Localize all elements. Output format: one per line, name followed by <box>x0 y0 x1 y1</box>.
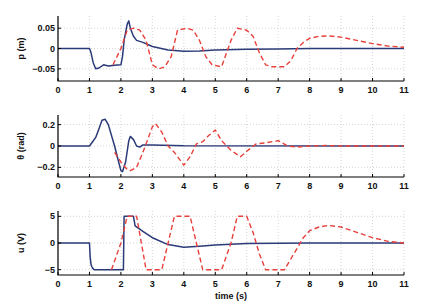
y-axis-label: p (m) <box>16 38 26 60</box>
panel-p: 012345678910110.050−0.05p (m) <box>16 16 409 95</box>
y-axis-label: θ (rad) <box>16 132 26 159</box>
x-tick-label: 5 <box>213 279 218 289</box>
x-tick-label: 6 <box>244 85 249 95</box>
x-tick-label: 8 <box>307 85 312 95</box>
y-tick-label: −0.2 <box>37 162 55 172</box>
x-tick-label: 6 <box>244 181 249 191</box>
x-tick-label: 1 <box>87 181 92 191</box>
x-tick-label: 4 <box>181 85 186 95</box>
x-tick-label: 0 <box>55 85 60 95</box>
panel-theta: 012345678910110.20−0.2θ (rad) <box>16 115 409 191</box>
x-tick-label: 11 <box>399 279 409 289</box>
x-tick-label: 10 <box>368 279 378 289</box>
y-tick-label: −5 <box>45 265 55 275</box>
x-tick-label: 4 <box>181 181 186 191</box>
x-tick-label: 7 <box>276 85 281 95</box>
y-tick-label: 0.05 <box>37 23 55 33</box>
x-tick-label: 2 <box>118 181 123 191</box>
x-tick-label: 11 <box>399 181 409 191</box>
y-tick-label: 5 <box>50 211 55 221</box>
x-tick-label: 5 <box>213 85 218 95</box>
x-tick-label: 1 <box>87 279 92 289</box>
x-tick-label: 10 <box>368 85 378 95</box>
x-tick-label: 5 <box>213 181 218 191</box>
y-tick-label: 0 <box>50 141 55 151</box>
y-tick-label: 0 <box>50 44 55 54</box>
x-tick-label: 3 <box>150 181 155 191</box>
x-tick-label: 3 <box>150 279 155 289</box>
y-tick-label: −0.05 <box>32 64 55 74</box>
x-tick-label: 9 <box>339 85 344 95</box>
x-tick-label: 2 <box>118 85 123 95</box>
x-tick-label: 9 <box>339 279 344 289</box>
panel-u: 0123456789101150−5u (V)time (s) <box>16 211 409 301</box>
y-axis-label: u (V) <box>16 233 26 253</box>
x-tick-label: 3 <box>150 85 155 95</box>
x-tick-label: 6 <box>244 279 249 289</box>
x-tick-label: 9 <box>339 181 344 191</box>
x-tick-label: 7 <box>276 181 281 191</box>
x-tick-label: 1 <box>87 85 92 95</box>
x-tick-label: 2 <box>118 279 123 289</box>
x-tick-label: 8 <box>307 279 312 289</box>
x-tick-label: 0 <box>55 279 60 289</box>
chart-svg: 012345678910110.050−0.05p (m)01234567891… <box>0 0 426 308</box>
dashed-series-line <box>115 124 404 171</box>
x-axis-label: time (s) <box>215 291 247 301</box>
figure: 012345678910110.050−0.05p (m)01234567891… <box>0 0 426 308</box>
x-tick-label: 4 <box>181 279 186 289</box>
x-tick-label: 7 <box>276 279 281 289</box>
y-tick-label: 0 <box>50 238 55 248</box>
y-tick-label: 0.2 <box>42 120 55 130</box>
x-tick-label: 8 <box>307 181 312 191</box>
x-tick-label: 10 <box>368 181 378 191</box>
solid-series-line <box>58 119 404 171</box>
x-tick-label: 11 <box>399 85 409 95</box>
x-tick-label: 0 <box>55 181 60 191</box>
